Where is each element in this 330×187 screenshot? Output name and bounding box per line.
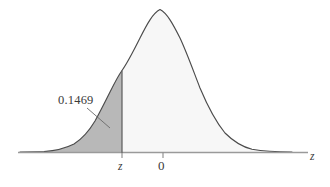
normal-curve-plot (0, 0, 330, 187)
axis-tick-label-z: z (118, 161, 122, 173)
normal-distribution-figure: 0.1469 z 0 z (0, 0, 330, 187)
shaded-area-value-label: 0.1469 (58, 94, 94, 107)
axis-tick-label-zero: 0 (158, 159, 165, 172)
shaded-tail-region (20, 71, 122, 153)
axis-name-label-z: z (310, 151, 314, 163)
distribution-body-fill (122, 10, 292, 153)
